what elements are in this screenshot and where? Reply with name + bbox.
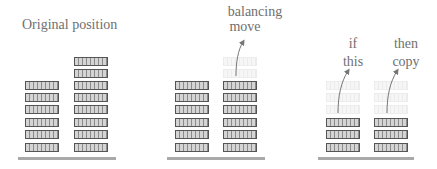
ghost-block (374, 81, 408, 90)
ghost-block (326, 81, 360, 90)
block (223, 118, 257, 127)
ghost-block (223, 57, 257, 66)
block (25, 105, 59, 114)
block (223, 93, 257, 102)
label-this: this (338, 54, 368, 69)
block (74, 130, 108, 139)
label-copy: copy (386, 54, 426, 69)
block (223, 105, 257, 114)
block (326, 143, 360, 152)
block (25, 143, 59, 152)
block (175, 105, 209, 114)
block (25, 81, 59, 90)
label-if: if (338, 36, 368, 51)
label-balancing: balancing (220, 4, 290, 19)
ghost-block (326, 105, 360, 114)
block (223, 143, 257, 152)
block (74, 81, 108, 90)
block (175, 118, 209, 127)
block (74, 69, 108, 78)
block (374, 143, 408, 152)
ghost-block (326, 93, 360, 102)
block (74, 57, 108, 66)
block-balancing-diagram: Original position balancing move (0, 0, 437, 169)
block (175, 130, 209, 139)
ground-line (318, 157, 414, 160)
block (326, 118, 360, 127)
block (74, 93, 108, 102)
block (74, 118, 108, 127)
ground-line (18, 157, 116, 160)
ghost-block (374, 93, 408, 102)
block (175, 81, 209, 90)
block (25, 93, 59, 102)
block (223, 130, 257, 139)
block (25, 118, 59, 127)
block (175, 143, 209, 152)
block (223, 81, 257, 90)
label-then: then (386, 36, 426, 51)
block (374, 118, 408, 127)
ground-line (167, 157, 265, 160)
block (175, 93, 209, 102)
label-move: move (220, 19, 270, 34)
block (374, 130, 408, 139)
block (74, 143, 108, 152)
block (74, 105, 108, 114)
block (326, 130, 360, 139)
block (25, 130, 59, 139)
label-original-position: Original position (22, 17, 117, 32)
ghost-block (223, 69, 257, 78)
ghost-block (374, 105, 408, 114)
